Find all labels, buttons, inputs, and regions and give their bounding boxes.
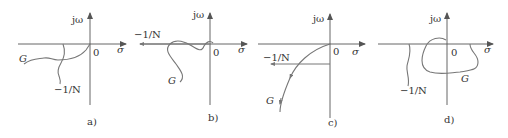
sigma-label: σ — [352, 46, 360, 57]
origin-label: 0 — [451, 47, 457, 58]
panel-c: jω 0 σ G −1/N c) — [258, 13, 365, 128]
jw-label: jω — [192, 9, 204, 20]
g-label: G — [461, 73, 469, 84]
sigma-label: σ — [117, 44, 125, 55]
neg-inv-n-curve — [58, 44, 65, 84]
neg-inv-n-curve — [407, 44, 410, 86]
g-curve — [422, 38, 478, 74]
g-curve — [24, 44, 90, 64]
nyquist-diagrams: jω 0 σ G −1/N a) jω 0 σ G −1/N b) jω 0 σ… — [0, 0, 508, 138]
neg-inv-n-label: −1/N — [263, 52, 290, 63]
caption-d: d) — [444, 114, 454, 125]
origin-label: 0 — [333, 46, 339, 57]
neg-inv-n-label: −1/N — [134, 29, 161, 40]
caption-a: a) — [87, 116, 97, 127]
origin-label: 0 — [93, 47, 99, 58]
g-label: G — [168, 75, 176, 86]
neg-inv-n-label: −1/N — [400, 85, 427, 96]
jw-label: jω — [71, 14, 83, 25]
neg-inv-n-label: −1/N — [54, 84, 81, 95]
sigma-label: σ — [484, 44, 492, 55]
caption-c: c) — [328, 117, 338, 128]
g-label: G — [19, 53, 27, 64]
panel-b: jω 0 σ G −1/N b) — [134, 9, 247, 123]
jw-label: jω — [312, 13, 324, 24]
panel-d: jω 0 σ G −1/N d) — [378, 13, 493, 125]
panel-a: jω 0 σ G −1/N a) — [18, 13, 126, 127]
jw-label: jω — [429, 13, 441, 24]
sigma-label: σ — [238, 44, 246, 55]
origin-label: 0 — [213, 47, 219, 58]
caption-b: b) — [208, 112, 218, 123]
g-label: G — [266, 95, 274, 106]
